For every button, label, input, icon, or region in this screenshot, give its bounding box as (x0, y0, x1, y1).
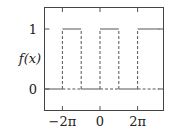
x-tick-label: −2π (49, 114, 77, 129)
x-tick-label: 2π (129, 114, 146, 129)
y-tick-label: 1 (29, 22, 37, 37)
x-tick-labels: −2π02π (49, 114, 147, 129)
plot-area (45, 8, 164, 111)
y-tick-label: 0 (29, 82, 37, 97)
y-axis-label: f(x) (18, 51, 41, 66)
x-tick-label: 0 (96, 114, 104, 129)
chart: −2π02π 01 f(x) (0, 0, 174, 134)
